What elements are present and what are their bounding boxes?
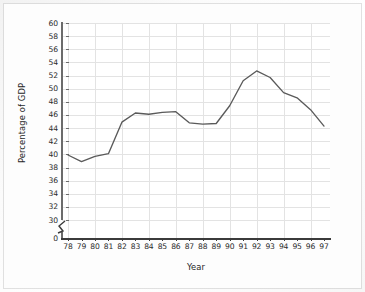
x-tick-mark	[108, 238, 109, 241]
y-tick-mark	[66, 62, 69, 63]
y-tick-mark	[66, 49, 69, 50]
gridline-vertical	[311, 23, 312, 238]
x-tick-mark	[203, 238, 204, 241]
y-tick-mark	[66, 207, 69, 208]
x-tick-mark	[284, 238, 285, 241]
x-tick-mark	[257, 238, 258, 241]
x-tick-mark	[135, 238, 136, 241]
y-tick-mark	[66, 102, 69, 103]
gridline-vertical	[203, 23, 204, 238]
gridline-horizontal	[62, 168, 330, 169]
gridline-vertical	[95, 23, 96, 238]
plot-area-background	[62, 23, 330, 238]
gridline-horizontal	[62, 76, 330, 77]
x-tick-mark	[311, 238, 312, 241]
gridline-horizontal	[62, 194, 330, 195]
x-tick-mark	[216, 238, 217, 241]
gridline-vertical	[68, 23, 69, 238]
gridline-horizontal	[62, 115, 330, 116]
y-tick-mark	[66, 168, 69, 169]
gridline-horizontal	[62, 141, 330, 142]
y-tick-label: 56	[14, 45, 58, 54]
y-tick-mark	[66, 128, 69, 129]
chart-figure: 030323436384042444648505254565860 787980…	[0, 0, 365, 292]
x-tick-mark	[176, 238, 177, 241]
y-tick-mark	[66, 89, 69, 90]
y-tick-label: 30	[14, 216, 58, 225]
gridline-horizontal	[62, 128, 330, 129]
y-tick-mark	[66, 23, 69, 24]
gridline-vertical	[257, 23, 258, 238]
y-tick-mark	[66, 181, 69, 182]
gridline-vertical	[230, 23, 231, 238]
gridline-horizontal	[62, 36, 330, 37]
y-axis-ticks: 030323436384042444648505254565860	[8, 0, 58, 292]
x-tick-mark	[82, 238, 83, 241]
gridline-horizontal	[62, 207, 330, 208]
y-axis-line	[61, 22, 63, 220]
gridline-horizontal	[62, 181, 330, 182]
y-tick-label: 58	[14, 32, 58, 41]
gridline-vertical	[122, 23, 123, 238]
x-tick-mark	[230, 238, 231, 241]
x-axis-title: Year	[62, 262, 330, 272]
y-tick-mark	[66, 115, 69, 116]
gridline-vertical	[149, 23, 150, 238]
x-tick-mark	[122, 238, 123, 241]
gridline-horizontal	[62, 49, 330, 50]
x-tick-mark	[95, 238, 96, 241]
gridline-vertical	[284, 23, 285, 238]
gridline-vertical	[176, 23, 177, 238]
gridline-horizontal	[62, 62, 330, 63]
y-tick-mark	[66, 220, 69, 221]
gridline-horizontal	[62, 102, 330, 103]
x-tick-mark	[270, 238, 271, 241]
x-tick-label: 97	[316, 242, 332, 251]
gridline-horizontal	[62, 89, 330, 90]
y-tick-mark	[66, 36, 69, 37]
y-tick-mark	[66, 141, 69, 142]
x-tick-mark	[68, 238, 69, 241]
gridline-horizontal	[62, 220, 330, 221]
gridline-horizontal	[62, 154, 330, 155]
y-tick-label: 60	[14, 19, 58, 28]
gridline-horizontal	[62, 23, 330, 24]
y-tick-mark	[66, 194, 69, 195]
x-tick-mark	[149, 238, 150, 241]
x-tick-mark	[162, 238, 163, 241]
x-tick-mark	[297, 238, 298, 241]
y-tick-label: 0	[14, 234, 58, 243]
x-tick-mark	[324, 238, 325, 241]
x-axis-line	[61, 238, 331, 240]
y-tick-mark	[66, 154, 69, 155]
y-axis-title: Percentage of GDP	[17, 63, 27, 183]
x-tick-mark	[189, 238, 190, 241]
y-tick-label: 34	[14, 189, 58, 198]
y-tick-mark	[66, 76, 69, 77]
y-tick-label: 32	[14, 202, 58, 211]
x-tick-mark	[243, 238, 244, 241]
